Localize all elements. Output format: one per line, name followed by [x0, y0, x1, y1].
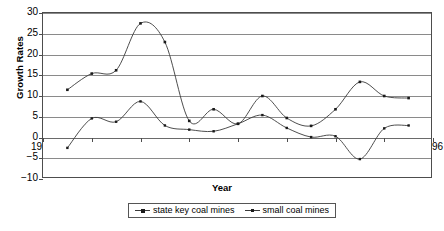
data-point-s1-1991	[310, 125, 313, 128]
y-tick-label-5: 5	[10, 111, 38, 121]
chart-root: Growth Rates −10−5051015202530 198019821…	[0, 0, 444, 231]
data-point-s1-1984	[139, 22, 142, 25]
x-tick-1996	[433, 138, 434, 142]
y-tick-label--5: −5	[10, 152, 38, 162]
x-axis-title: Year	[0, 182, 444, 193]
y-tick--10	[39, 179, 43, 180]
data-point-s1-1994	[383, 95, 386, 98]
data-point-s2-1983	[115, 121, 117, 123]
legend-item-small-coal-mines[interactable]: small coal mines	[245, 206, 330, 215]
legend-item-state-key-coal-mines[interactable]: state key coal mines	[135, 206, 235, 215]
y-tick-label-20: 20	[10, 49, 38, 59]
y-tick-label-25: 25	[10, 28, 38, 38]
data-point-s1-1983	[115, 69, 118, 72]
data-point-s2-1992	[334, 135, 336, 137]
plot-area	[42, 12, 432, 178]
data-point-s2-1986	[188, 128, 190, 130]
data-point-s1-1990	[285, 117, 288, 120]
data-point-s2-1982	[91, 117, 93, 119]
data-point-s2-1991	[310, 136, 312, 138]
y-tick-label-15: 15	[10, 69, 38, 79]
data-point-s2-1990	[286, 127, 288, 129]
legend-label-series-2: small coal mines	[263, 206, 330, 215]
legend-marker-icon-series-1	[135, 207, 150, 214]
data-point-s1-1981	[66, 88, 69, 91]
data-point-s2-1995	[407, 124, 409, 126]
data-point-s1-1993	[359, 81, 362, 84]
y-tick-label-10: 10	[10, 90, 38, 100]
data-point-s1-1982	[90, 72, 93, 75]
series-line-2	[67, 101, 408, 159]
data-point-s1-1992	[334, 108, 337, 111]
data-point-s1-1987	[212, 108, 215, 111]
data-point-s2-1993	[359, 158, 361, 160]
data-point-s1-1985	[164, 41, 167, 44]
legend-marker-icon-series-2	[245, 207, 260, 214]
data-point-s2-1981	[66, 147, 68, 149]
data-point-s2-1984	[139, 100, 141, 102]
data-point-s2-1988	[237, 123, 239, 125]
data-point-s2-1989	[261, 114, 263, 116]
data-point-s1-1989	[261, 95, 264, 98]
data-point-s2-1987	[212, 130, 214, 132]
data-point-s2-1985	[164, 124, 166, 126]
data-point-s1-1986	[188, 120, 191, 123]
y-tick-label-0: 0	[10, 132, 38, 142]
chart-legend: state key coal mines small coal mines	[128, 203, 336, 218]
chart-series-layer	[43, 13, 433, 179]
data-point-s1-1995	[407, 97, 410, 100]
data-point-s2-1994	[383, 127, 385, 129]
legend-label-series-1: state key coal mines	[153, 206, 235, 215]
y-tick-label-30: 30	[10, 7, 38, 17]
series-line-1	[67, 22, 408, 126]
